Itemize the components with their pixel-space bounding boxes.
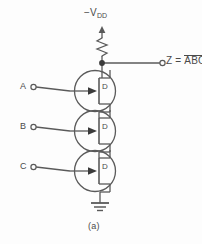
junction-dot-icon — [99, 60, 105, 66]
input-wire-c — [36, 167, 70, 171]
input-label-a: A — [20, 82, 26, 91]
figure-canvas: −VDD Z = ABC A B C D D D (a) — [0, 0, 202, 244]
input-lead-b — [31, 124, 70, 131]
input-terminal-a-icon[interactable] — [31, 84, 36, 89]
transistor-q2 — [70, 110, 116, 152]
transistor-q3-label: D — [102, 163, 108, 171]
fet-gate-arrow-icon — [88, 127, 97, 135]
supply-label: −VDD — [84, 8, 107, 19]
output-label-prefix: Z = — [166, 55, 184, 66]
transistor-q1 — [70, 70, 116, 112]
output-branch — [99, 60, 165, 66]
fet-gate-arrow-icon — [88, 87, 97, 95]
input-label-b: B — [20, 122, 26, 131]
resistor-zigzag-icon — [97, 38, 107, 56]
pullup-resistor — [97, 38, 107, 56]
output-label: Z = ABC — [166, 55, 202, 67]
input-lead-a — [31, 84, 70, 91]
ground-symbol-icon — [91, 203, 109, 211]
input-wire-a — [36, 87, 70, 91]
input-label-c: C — [20, 162, 27, 171]
input-terminal-b-icon[interactable] — [31, 124, 36, 129]
output-terminal-icon — [160, 60, 165, 65]
transistor-q2-label: D — [102, 123, 108, 131]
supply-label-subscript: DD — [97, 12, 107, 19]
transistor-q1-label: D — [102, 83, 108, 91]
input-terminal-c-icon[interactable] — [31, 164, 36, 169]
input-lead-c — [31, 164, 70, 171]
supply-rail — [99, 26, 106, 38]
input-wire-b — [36, 127, 70, 131]
output-expression: ABC — [184, 55, 202, 67]
figure-caption: (a) — [88, 222, 100, 231]
transistor-q3 — [70, 150, 116, 192]
supply-label-prefix: −V — [84, 7, 97, 18]
fet-gate-arrow-icon — [88, 167, 97, 175]
circuit-schematic — [0, 0, 202, 244]
